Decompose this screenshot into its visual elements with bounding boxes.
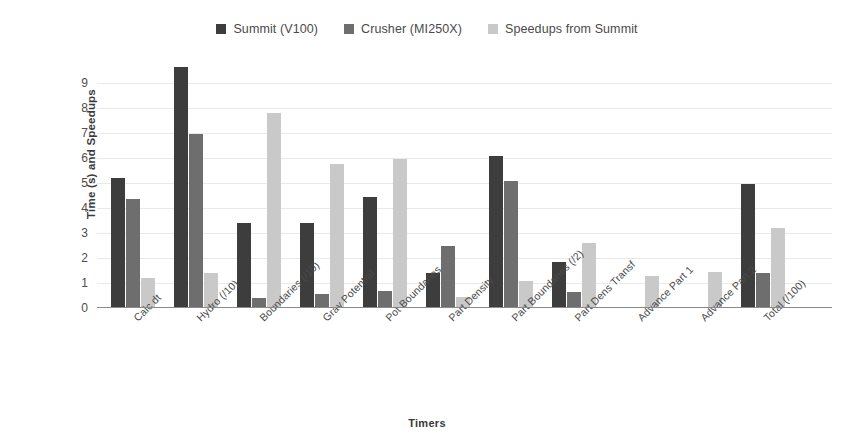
- y-axis-tick-label: 1: [66, 276, 88, 290]
- chart-legend: Summit (V100)Crusher (MI250X)Speedups fr…: [0, 22, 854, 36]
- y-axis-tick-label: 5: [66, 176, 88, 190]
- y-axis-tick-label: 4: [66, 201, 88, 215]
- legend-entry[interactable]: Summit (V100): [216, 22, 318, 36]
- legend-swatch-icon: [344, 24, 354, 34]
- bar[interactable]: [441, 246, 455, 309]
- bar-group: [174, 63, 218, 308]
- y-axis-tick-label: 3: [66, 226, 88, 240]
- bar[interactable]: [174, 67, 188, 308]
- legend-swatch-icon: [216, 24, 226, 34]
- legend-entry[interactable]: Speedups from Summit: [488, 22, 638, 36]
- bar[interactable]: [393, 159, 407, 308]
- legend-swatch-icon: [488, 24, 498, 34]
- bar[interactable]: [237, 223, 251, 308]
- legend-label: Summit (V100): [233, 22, 318, 36]
- bar[interactable]: [741, 184, 755, 308]
- legend-entry[interactable]: Crusher (MI250X): [344, 22, 462, 36]
- bar[interactable]: [267, 113, 281, 308]
- legend-label: Speedups from Summit: [505, 22, 638, 36]
- bar[interactable]: [126, 199, 140, 308]
- y-axis-tick-label: 7: [66, 126, 88, 140]
- bar[interactable]: [756, 273, 770, 308]
- bar-group: [489, 63, 533, 308]
- y-axis-tick-label: 8: [66, 101, 88, 115]
- y-axis-tick-label: 0: [66, 301, 88, 315]
- x-axis-title: Timers: [0, 417, 854, 429]
- bar[interactable]: [189, 134, 203, 308]
- bar[interactable]: [363, 197, 377, 308]
- y-axis-tick-label: 6: [66, 151, 88, 165]
- y-axis-tick-label: 9: [66, 76, 88, 90]
- bar-group: [111, 63, 155, 308]
- bar[interactable]: [378, 291, 392, 309]
- legend-label: Crusher (MI250X): [361, 22, 462, 36]
- bar-group: [237, 63, 281, 308]
- y-axis-tick-label: 2: [66, 251, 88, 265]
- axis-baseline: [97, 307, 832, 309]
- bar[interactable]: [330, 164, 344, 308]
- bar[interactable]: [111, 178, 125, 308]
- bar[interactable]: [504, 181, 518, 309]
- plot-area: 0123456789 Calc dtHydro (/10)Boundaries …: [97, 63, 832, 308]
